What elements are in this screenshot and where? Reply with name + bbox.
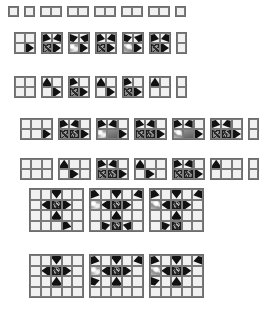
pattern-cell-sky: [90, 200, 101, 211]
pattern-cell-half-dr: [62, 221, 73, 232]
pattern-cell-plain: [30, 266, 41, 277]
pattern-fragment[interactable]: [134, 118, 167, 140]
ros-icon: [60, 130, 68, 138]
pattern-fragment[interactable]: [172, 158, 205, 180]
pattern-cell-plain: [96, 87, 106, 97]
pattern-cell-plain: [122, 255, 133, 266]
pattern-cell-plain: [41, 221, 52, 232]
pattern-cell-ros: [171, 266, 182, 277]
pattern-fragment[interactable]: [24, 6, 35, 17]
pattern-fragment[interactable]: [41, 32, 63, 54]
pattern-fragment[interactable]: [89, 188, 144, 232]
pattern-cell-plain: [122, 276, 133, 287]
pattern-fragment[interactable]: [68, 76, 90, 98]
pattern-cell-half-dl: [52, 33, 62, 43]
pattern-cell-plain: [122, 210, 133, 221]
pattern-cell-sky: [97, 129, 107, 139]
pattern-fragment[interactable]: [20, 158, 53, 180]
ros-icon: [112, 201, 121, 210]
pattern-fragment[interactable]: [176, 32, 187, 54]
pattern-cell-lobe-r: [182, 200, 193, 211]
pattern-cell-half-dr: [150, 255, 161, 266]
pattern-fragment[interactable]: [40, 6, 62, 17]
pattern-fragment[interactable]: [58, 118, 91, 140]
ros-icon: [146, 130, 154, 138]
pattern-fragment[interactable]: [122, 32, 144, 54]
pattern-cell-plain: [62, 276, 73, 287]
lobe-r-icon: [25, 43, 34, 53]
pattern-cell-plain: [90, 210, 101, 221]
pattern-cell-plain: [31, 119, 41, 129]
pattern-cell-half-dl: [192, 189, 203, 200]
pattern-fragment[interactable]: [96, 158, 129, 180]
pattern-fragment[interactable]: [210, 118, 243, 140]
half-dr-icon: [43, 34, 51, 42]
pattern-cell-lobe-r: [118, 169, 128, 179]
pattern-cell-plain: [150, 221, 161, 232]
pattern-fragment[interactable]: [68, 32, 90, 54]
pattern-cell-ros: [111, 200, 122, 211]
lobe-r-icon: [122, 200, 131, 211]
ros-icon: [70, 130, 78, 138]
pattern-fragment[interactable]: [14, 32, 36, 54]
half-dr-icon: [91, 256, 100, 265]
pattern-cell-lobe-u: [171, 276, 182, 287]
lobe-r-icon: [80, 129, 89, 139]
pattern-cell-plain: [25, 7, 34, 16]
pattern-fragment[interactable]: [95, 76, 117, 98]
pattern-fragment[interactable]: [210, 158, 243, 180]
pattern-cell-plain: [41, 210, 52, 221]
pattern-cell-lobe-r: [194, 169, 204, 179]
pattern-cell-plain: [249, 169, 258, 179]
pattern-fragment[interactable]: [67, 6, 89, 17]
pattern-fragment[interactable]: [20, 118, 53, 140]
pattern-fragment[interactable]: [248, 118, 259, 140]
pattern-cell-plain: [41, 255, 52, 266]
half-dr-icon: [151, 256, 160, 265]
half-dl-icon: [184, 120, 192, 128]
pattern-cell-plain: [9, 7, 18, 16]
pattern-cell-lobe-u: [150, 77, 160, 87]
pattern-fragment[interactable]: [149, 188, 204, 232]
pattern-fragment[interactable]: [41, 76, 63, 98]
ros-icon: [124, 88, 132, 96]
pattern-fragment[interactable]: [8, 6, 19, 17]
pattern-cell-plain: [156, 119, 166, 129]
half-dr-icon: [151, 34, 159, 42]
pattern-cell-half-dr: [135, 119, 145, 129]
pattern-fragment[interactable]: [175, 6, 186, 17]
pattern-fragment[interactable]: [29, 188, 84, 232]
pattern-fragment[interactable]: [121, 6, 143, 17]
pattern-fragment[interactable]: [122, 76, 144, 98]
pattern-fragment[interactable]: [176, 76, 187, 98]
pattern-cell-plain: [150, 87, 160, 97]
pattern-fragment[interactable]: [94, 6, 116, 17]
pattern-cell-lobe-r: [62, 266, 73, 277]
pattern-fragment[interactable]: [14, 76, 36, 98]
pattern-cell-lobe-r: [52, 87, 62, 97]
pattern-cell-plain: [101, 210, 112, 221]
half-dr-icon: [60, 120, 68, 128]
pattern-cell-plain: [182, 210, 193, 221]
pattern-fragment[interactable]: [149, 254, 204, 298]
pattern-fragment[interactable]: [248, 158, 259, 180]
pattern-cell-ros: [69, 87, 79, 97]
pattern-fragment[interactable]: [149, 32, 171, 54]
pattern-cell-plain: [156, 169, 166, 179]
pattern-cell-lobe-r: [182, 266, 193, 277]
pattern-fragment[interactable]: [149, 76, 171, 98]
pattern-fragment[interactable]: [89, 254, 144, 298]
pattern-cell-plain: [161, 255, 172, 266]
half-dr-icon: [98, 160, 106, 168]
pattern-cell-ros: [51, 200, 62, 211]
band-1-singles: [8, 6, 186, 17]
pattern-fragment[interactable]: [58, 158, 91, 180]
pattern-fragment[interactable]: [134, 158, 167, 180]
pattern-fragment[interactable]: [172, 118, 205, 140]
pattern-fragment[interactable]: [96, 118, 129, 140]
ros-icon: [172, 201, 181, 210]
pattern-cell-lobe-r: [160, 43, 170, 53]
pattern-fragment[interactable]: [148, 6, 170, 17]
pattern-fragment[interactable]: [95, 32, 117, 54]
pattern-fragment[interactable]: [29, 254, 84, 298]
